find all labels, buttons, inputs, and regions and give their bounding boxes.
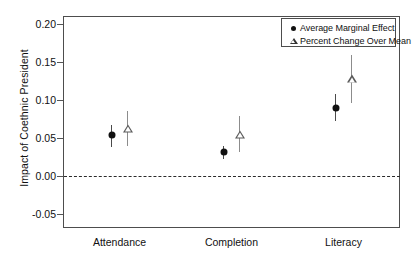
y-axis-tick-label: 0.20 xyxy=(10,18,56,30)
legend-item-percent-change-over-mean: Percent Change Over Mean xyxy=(287,35,391,47)
chart-figure: Impact of Coethnic President 0.200.150.1… xyxy=(0,0,415,257)
open-triangle-icon xyxy=(287,38,300,44)
plot-area xyxy=(63,16,400,228)
data-point-triangle xyxy=(235,131,245,139)
y-axis-tick-label: -0.05 xyxy=(10,208,56,220)
y-axis-tick-label: 0.10 xyxy=(10,94,56,106)
legend-label: Percent Change Over Mean xyxy=(300,36,411,46)
y-axis-tick-labels: 0.200.150.100.050.00-0.05 xyxy=(8,0,56,257)
zero-reference-line xyxy=(64,176,400,177)
x-axis-tick-label: Literacy xyxy=(325,236,362,248)
data-point-circle xyxy=(108,131,115,138)
legend-item-average-marginal-effect: Average Marginal Effect xyxy=(287,22,391,34)
chart-legend: Average Marginal Effect Percent Change O… xyxy=(281,18,396,47)
data-point-triangle xyxy=(123,124,133,132)
x-axis-tick-label: Completion xyxy=(205,236,258,248)
data-point-circle xyxy=(332,104,339,111)
y-axis-tick-label: 0.00 xyxy=(10,170,56,182)
data-point-circle xyxy=(220,149,227,156)
filled-circle-icon xyxy=(287,26,300,31)
data-point-triangle xyxy=(347,75,357,83)
y-axis-tick-label: 0.15 xyxy=(10,56,56,68)
y-axis-tick-label: 0.05 xyxy=(10,132,56,144)
legend-label: Average Marginal Effect xyxy=(300,23,395,33)
x-axis-tick-label: Attendance xyxy=(93,236,146,248)
